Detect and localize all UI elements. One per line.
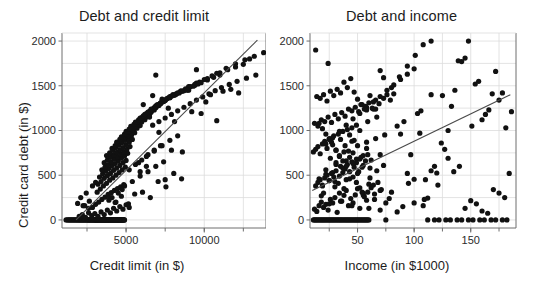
data-points [63, 50, 266, 222]
x-axis-ticks: 500010000 [87, 228, 243, 246]
svg-text:2000: 2000 [280, 35, 304, 47]
panel-debt-credit-limit: Debt and credit limit 050010001500200050… [0, 0, 266, 281]
svg-text:150: 150 [462, 234, 480, 246]
y-axis-ticks: 0500100015002000 [280, 35, 310, 226]
x-axis-ticks: 50100150 [329, 228, 499, 246]
svg-text:500: 500 [286, 169, 304, 181]
svg-text:0: 0 [50, 214, 56, 226]
svg-text:10000: 10000 [189, 234, 220, 246]
trend-line [312, 95, 510, 191]
svg-text:500: 500 [38, 169, 56, 181]
y-axis-label-left: Credit card debt (in $) [16, 102, 31, 228]
panel-debt-income: Debt and income 050010001500200050100150… [266, 0, 533, 281]
scatter-plot-credit-limit: 0500100015002000500010000 [0, 0, 266, 281]
svg-text:1500: 1500 [280, 80, 304, 92]
svg-text:5000: 5000 [114, 234, 138, 246]
svg-text:1500: 1500 [32, 80, 56, 92]
svg-text:1000: 1000 [280, 124, 304, 136]
svg-text:0: 0 [298, 214, 304, 226]
svg-text:2000: 2000 [32, 35, 56, 47]
y-axis-ticks: 0500100015002000 [32, 35, 62, 226]
scatter-plot-income: 050010001500200050100150 [266, 0, 533, 281]
svg-text:100: 100 [405, 234, 423, 246]
x-axis-label-left: Credit limit (in $) [12, 258, 262, 273]
svg-text:1000: 1000 [32, 124, 56, 136]
trend-line [76, 40, 257, 220]
figure-root: Debt and credit limit 050010001500200050… [0, 0, 533, 281]
x-axis-label-right: Income (in $1000) [272, 258, 522, 273]
svg-text:50: 50 [351, 234, 363, 246]
